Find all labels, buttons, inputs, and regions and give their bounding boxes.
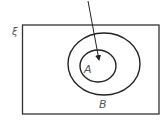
set-b-ellipse (68, 33, 140, 95)
venn-diagram: ξ A B (0, 0, 168, 123)
set-b-label: B (99, 98, 107, 111)
universal-set-label: ξ (11, 26, 18, 37)
set-a-label: A (83, 63, 92, 76)
